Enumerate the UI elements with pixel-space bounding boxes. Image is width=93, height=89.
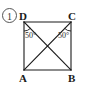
geometry-figure: 1 D C A B 50° 50°: [0, 0, 93, 89]
vertex-label-A: A: [19, 73, 27, 84]
vertex-label-B: B: [68, 73, 75, 84]
vertex-label-C: C: [68, 11, 76, 22]
figure-drawing: [0, 0, 93, 89]
angle-label-C: 50°: [58, 30, 69, 41]
angle-label-D: 50°: [25, 30, 36, 41]
vertex-label-D: D: [19, 11, 27, 22]
